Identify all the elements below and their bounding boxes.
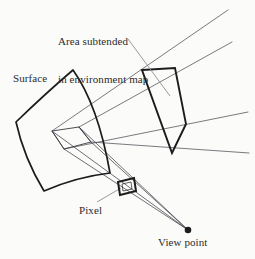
label-pixel: Pixel [79, 204, 102, 217]
surface-footprint-quad [52, 127, 91, 149]
environment-map-area-quad [142, 68, 186, 153]
label-area-subtended-line2: in environment map [58, 73, 148, 86]
leader-line-pixel [97, 188, 121, 202]
label-area-subtended: Area subtended in environment map [58, 10, 148, 110]
view-ray-2 [64, 149, 188, 230]
pixel-square-inner [122, 182, 132, 191]
label-view-point: View point [158, 236, 208, 249]
view-ray-4 [91, 142, 188, 230]
footprint-edge-a [52, 131, 64, 149]
figure-container: Area subtended in environment map Surfac… [0, 0, 255, 259]
footprint-edge-b [79, 127, 91, 142]
label-area-subtended-line1: Area subtended [58, 35, 148, 48]
view-point-dot [185, 227, 192, 234]
projection-ray-lower-left [64, 112, 248, 149]
label-surface: Surface [13, 72, 47, 85]
